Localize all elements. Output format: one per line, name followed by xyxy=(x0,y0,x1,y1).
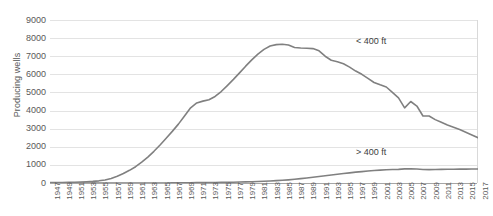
plot-series-svg xyxy=(50,20,478,183)
plot-area xyxy=(50,20,478,183)
y-axis-tick-labels: 0100020003000400050006000700080009000 xyxy=(14,0,46,216)
y-tick-label-6000: 6000 xyxy=(14,70,46,79)
y-tick-label-3000: 3000 xyxy=(14,124,46,133)
y-tick-label-7000: 7000 xyxy=(14,52,46,61)
y-tick-label-2000: 2000 xyxy=(14,142,46,151)
y-tick-label-1000: 1000 xyxy=(14,160,46,169)
y-tick-label-4000: 4000 xyxy=(14,106,46,115)
y-tick-label-9000: 9000 xyxy=(14,16,46,25)
y-tick-label-8000: 8000 xyxy=(14,34,46,43)
x-tick-label-2017: 2017 xyxy=(482,182,493,214)
line-series-deep xyxy=(50,169,478,183)
series-label-shallow: < 400 ft xyxy=(356,36,386,46)
y-tick-label-0: 0 xyxy=(14,179,46,188)
series-label-deep: > 400 ft xyxy=(356,147,386,157)
y-tick-label-5000: 5000 xyxy=(14,88,46,97)
x-axis-tick-labels: 1947194919511953195519571959196119631965… xyxy=(50,184,478,216)
line-series-shallow xyxy=(50,44,478,182)
